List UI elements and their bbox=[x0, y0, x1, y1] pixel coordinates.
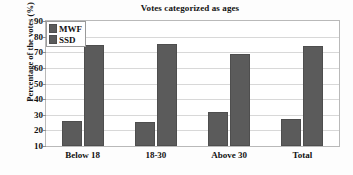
legend-swatch-mwf bbox=[49, 24, 57, 33]
y-tick-mark bbox=[43, 115, 46, 116]
y-tick-label: 40 bbox=[34, 94, 43, 104]
bar-mwf-2 bbox=[208, 112, 228, 146]
y-tick-label: 20 bbox=[34, 125, 43, 135]
y-tick-mark bbox=[43, 146, 46, 147]
y-tick-mark bbox=[43, 130, 46, 131]
y-tick-mark bbox=[43, 68, 46, 69]
y-tick-label: 60 bbox=[34, 63, 43, 73]
x-tick-label: Above 30 bbox=[211, 150, 247, 160]
chart-title: Votes categorized as ages bbox=[40, 3, 340, 13]
bar-ssd-3 bbox=[303, 46, 323, 146]
legend-label-mwf: MWF bbox=[59, 24, 82, 34]
y-tick-mark bbox=[43, 84, 46, 85]
x-tick-label: 18-30 bbox=[145, 150, 166, 160]
bar-chart-figure: Votes categorized as ages Percentage of … bbox=[0, 0, 353, 175]
bar-ssd-0 bbox=[84, 45, 104, 146]
y-tick-label: 80 bbox=[34, 32, 43, 42]
y-tick-label: 50 bbox=[34, 79, 43, 89]
y-tick-mark bbox=[43, 99, 46, 100]
bar-ssd-1 bbox=[157, 44, 177, 146]
x-tick-label: Total bbox=[293, 150, 313, 160]
y-tick-mark bbox=[43, 52, 46, 53]
bar-mwf-1 bbox=[135, 122, 155, 146]
legend-label-ssd: SSD bbox=[59, 35, 76, 45]
legend-item-mwf: MWF bbox=[49, 23, 82, 34]
y-tick-label: 10 bbox=[34, 141, 43, 151]
y-axis-title: Percentage of the votes (%) bbox=[25, 0, 35, 125]
bar-mwf-0 bbox=[62, 121, 82, 146]
bar-mwf-3 bbox=[281, 119, 301, 146]
y-tick-label: 90 bbox=[34, 16, 43, 26]
y-tick-label: 70 bbox=[34, 47, 43, 57]
x-tick-label: Below 18 bbox=[65, 150, 100, 160]
legend-item-ssd: SSD bbox=[49, 34, 82, 45]
y-tick-label: 30 bbox=[34, 110, 43, 120]
gridline bbox=[46, 37, 339, 38]
chart-legend: MWF SSD bbox=[46, 21, 86, 47]
legend-swatch-ssd bbox=[49, 35, 57, 44]
plot-area: 102030405060708090 Below 1818-30Above 30… bbox=[45, 20, 340, 147]
bar-ssd-2 bbox=[230, 54, 250, 146]
